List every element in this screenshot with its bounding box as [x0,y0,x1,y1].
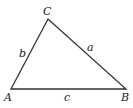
side-label-c: c [64,91,70,104]
side-label-a: a [87,41,94,54]
triangle-diagram: C A B b a c [0,0,133,108]
vertex-label-a: A [3,91,12,104]
side-label-b: b [19,47,26,60]
vertex-label-b: B [120,91,129,104]
triangle-abc [11,19,126,89]
vertex-label-c: C [43,5,52,18]
